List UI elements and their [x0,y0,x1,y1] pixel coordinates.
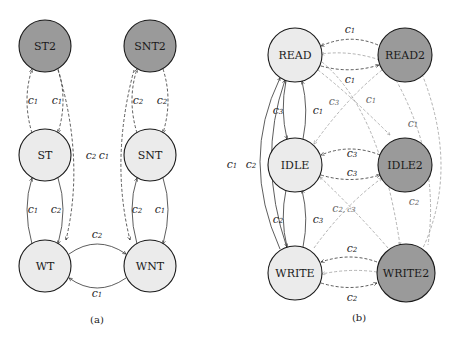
node-snt2: SNT2 [124,20,176,72]
svg-text:SNT2: SNT2 [134,40,166,53]
edge-write2-to-write [321,257,377,262]
edge-label: c3 [313,213,324,226]
edge-label: c2 [92,228,103,241]
edge-label: c1 [366,93,377,106]
edge-label: c1 [313,104,324,117]
node-read: READ [268,28,322,82]
node-st: ST [19,129,71,181]
edge-label: c1 [52,94,63,107]
edge-read2-to-read [321,39,378,46]
svg-text:IDLE2: IDLE2 [387,159,423,172]
node-snt: SNT [124,129,176,181]
edge-label: c3 [347,166,358,179]
state-diagrams: c1 c1 c2 c2 c2 c1 c1 c2 c2 c1 c2 c1 ST2 … [0,0,455,339]
caption-a: (a) [90,314,104,325]
svg-text:ST: ST [38,149,54,162]
edge-label: c2 [347,242,358,255]
svg-text:READ2: READ2 [385,49,425,62]
node-wt: WT [19,240,71,292]
edge-label: c1 [28,203,39,216]
edge-label: c3 [273,104,284,117]
edge-label: c1 [227,158,238,171]
node-st2: ST2 [19,20,71,72]
edge-label: c2, c3 [332,202,356,215]
edge-wt-to-wnt [69,244,126,254]
svg-text:SNT: SNT [138,149,163,162]
diagram-a: c1 c1 c2 c2 c2 c1 c1 c2 c2 c1 c2 c1 ST2 … [19,20,176,325]
edge-label: c2 [347,291,358,304]
node-read2: READ2 [378,28,432,82]
svg-text:WT: WT [36,260,55,273]
edge-label: c1 [345,73,356,86]
node-wnt: WNT [124,240,176,292]
edge-label: c2 [133,94,144,107]
svg-text:READ: READ [278,49,311,62]
node-idle2: IDLE2 [378,138,432,192]
svg-text:IDLE: IDLE [281,159,310,172]
node-write2: WRITE2 [377,244,435,302]
edge-label: c3 [347,147,358,160]
edge-label: c2 [86,149,97,162]
edge-label: c1 [99,149,110,162]
edge-label: c3 [329,95,340,108]
edge-label: c1 [92,287,103,300]
edge-label: c1 [408,117,419,130]
edge-write2-to-write-2 [322,270,377,274]
svg-text:WRITE2: WRITE2 [383,267,429,280]
node-write: WRITE [268,246,322,300]
svg-text:WRITE: WRITE [275,267,314,280]
svg-text:WNT: WNT [136,260,165,273]
edge-label: c2 [132,203,143,216]
edge-label: c1 [345,23,356,36]
caption-b: (b) [352,312,366,323]
edge-label: c2 [409,195,420,208]
edge-write-to-write2 [321,283,377,288]
edge-label: c1 [155,203,166,216]
edge-label: c2 [246,158,257,171]
edge-read-to-idle [283,81,287,139]
edge-write-to-idle [302,190,306,247]
svg-text:ST2: ST2 [34,40,56,53]
edge-label: c2 [51,203,62,216]
node-idle: IDLE [268,138,322,192]
edge-label: c1 [28,94,39,107]
edge-read2-to-read-2 [321,53,380,60]
edge-idle-to-read [302,81,306,139]
edge-label: c2 [273,213,284,226]
diagram-b: c1 c1 c3 c1 c1 c3 c1 c1 c2 c3 c3 c2, c3 … [227,23,441,324]
edge-label: c2 [157,94,168,107]
